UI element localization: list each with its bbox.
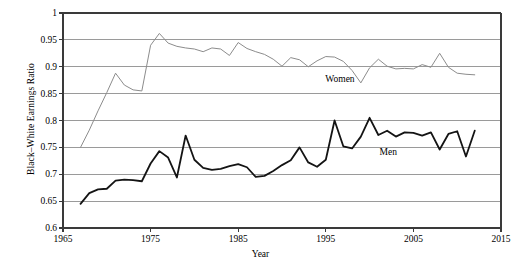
plot-canvas bbox=[0, 0, 521, 270]
series-line-women bbox=[81, 33, 475, 147]
chart-figure: Black–White Earnings Ratio Year 10.950.9… bbox=[0, 0, 521, 270]
series-line-men bbox=[81, 118, 475, 204]
series-label-women: Women bbox=[325, 74, 354, 84]
series-label-men: Men bbox=[380, 147, 397, 157]
